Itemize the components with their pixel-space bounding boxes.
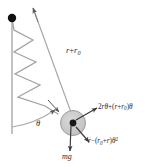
bob-center-dot bbox=[70, 120, 77, 127]
tangential-dot-single: ˙ bbox=[105, 103, 107, 107]
spring-pendulum-figure: r+r0 θ 2rθ˙+(r+r0)θ˙˙ r˙˙−(r0+r)θ˙2 mg bbox=[0, 0, 163, 167]
rod-length-r0-sub: 0 bbox=[77, 50, 80, 56]
figure-canvas bbox=[0, 0, 163, 167]
weight-g: g bbox=[68, 152, 72, 161]
radial-r-ddot: r˙˙ bbox=[88, 138, 91, 145]
rod-line bbox=[33, 8, 76, 126]
rod-length-label: r+r0 bbox=[66, 46, 80, 56]
spring-force-arrow bbox=[48, 100, 59, 112]
theta-arc bbox=[12, 110, 55, 127]
spring-coil bbox=[12, 18, 58, 114]
radial-dot-single: ˙ bbox=[113, 137, 115, 141]
pivot-point bbox=[8, 14, 16, 22]
tangential-dot-double: ˙˙ bbox=[129, 103, 132, 107]
rod-direction-arrow bbox=[33, 8, 38, 22]
weight-label: mg bbox=[62, 153, 72, 161]
tangential-theta-ddot: θ˙˙ bbox=[129, 104, 133, 111]
angle-label: θ bbox=[36, 119, 40, 128]
tangential-acceleration-label: 2rθ˙+(r+r0)θ˙˙ bbox=[98, 104, 133, 112]
radial-acceleration-label: r˙˙−(r0+r)θ˙2 bbox=[88, 137, 118, 146]
tangential-theta-dot: θ˙ bbox=[104, 104, 108, 111]
radial-theta-dot: θ˙ bbox=[112, 138, 116, 145]
radial-dot-double: ˙˙ bbox=[88, 137, 91, 141]
